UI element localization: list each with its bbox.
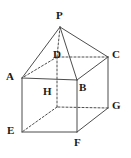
edge-PC [60,27,108,57]
vertex-label-H: H [43,86,52,97]
vertex-label-P: P [56,10,63,21]
edges-layer [22,27,108,132]
edge-FG [77,108,108,132]
edge-PB [60,27,77,80]
edge-BC [77,57,108,80]
vertex-label-D: D [53,49,61,60]
vertex-label-F: F [74,137,81,148]
geometry-figure: PABCDEFGH [0,0,131,158]
vertex-label-A: A [6,71,14,82]
vertex-label-C: C [112,49,120,60]
vertex-label-B: B [79,82,86,93]
edge-GH [57,107,108,108]
edge-HE [22,107,57,132]
vertex-label-G: G [112,100,121,111]
vertex-label-E: E [7,125,14,136]
geometry-canvas [0,0,131,158]
edge-DA [22,57,57,78]
edge-AB [22,78,77,80]
